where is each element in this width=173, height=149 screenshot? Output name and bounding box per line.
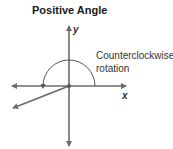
annotation-line1: Counterclockwise <box>96 50 173 61</box>
x-axis-label: x <box>121 90 128 101</box>
angle-diagram: y x Counterclockwise rotation <box>0 0 173 149</box>
y-axis-label: y <box>72 24 79 35</box>
terminal-ray <box>13 86 69 108</box>
annotation-line2: rotation <box>96 63 129 74</box>
origin-point <box>67 84 71 88</box>
